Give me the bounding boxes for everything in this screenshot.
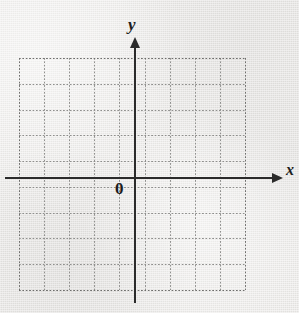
grid-line-vertical <box>44 58 45 290</box>
origin-label: 0 <box>115 180 124 197</box>
grid-line-horizontal <box>19 290 245 291</box>
x-axis-arrow-icon <box>272 173 283 183</box>
grid-line-horizontal <box>19 238 245 239</box>
y-axis-label: y <box>128 16 136 33</box>
y-axis-line <box>134 48 136 303</box>
grid-line-horizontal <box>19 135 245 136</box>
grid-line-horizontal <box>19 264 245 265</box>
grid-vertical-lines <box>19 58 245 290</box>
grid-line-vertical <box>94 58 95 290</box>
grid-line-horizontal <box>19 84 245 85</box>
dotted-grid <box>19 58 245 290</box>
grid-line-vertical <box>170 58 171 290</box>
grid-line-horizontal <box>19 58 245 59</box>
grid-line-vertical <box>19 58 20 290</box>
grid-line-vertical <box>145 58 146 290</box>
grid-line-horizontal <box>19 213 245 214</box>
grid-line-horizontal <box>19 110 245 111</box>
grid-line-horizontal <box>19 187 245 188</box>
grid-line-horizontal <box>19 161 245 162</box>
grid-line-vertical <box>69 58 70 290</box>
coordinate-grid-figure: x y 0 <box>0 0 299 313</box>
grid-line-vertical <box>220 58 221 290</box>
y-axis-arrow-icon <box>130 37 140 48</box>
x-axis-label: x <box>286 162 294 178</box>
grid-line-vertical <box>195 58 196 290</box>
x-axis-line <box>5 177 272 179</box>
grid-horizontal-lines <box>19 58 245 290</box>
grid-line-vertical <box>119 58 120 290</box>
grid-line-vertical <box>245 58 246 290</box>
